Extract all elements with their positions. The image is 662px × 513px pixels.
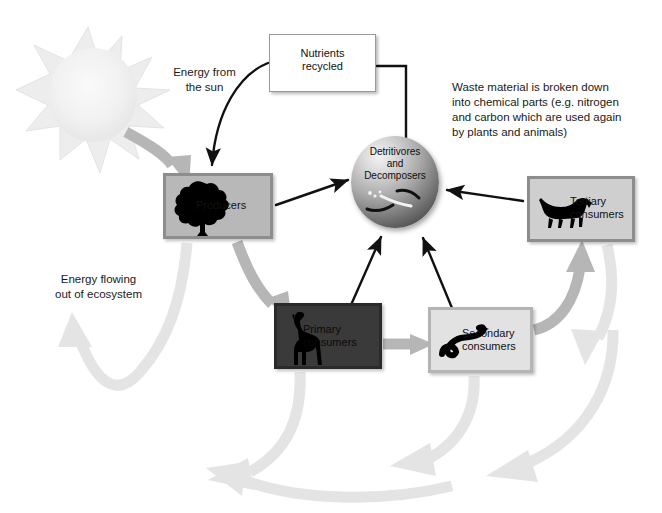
- node-nutrients-label: Nutrients recycled: [269, 47, 376, 73]
- node-detritivores-label: Detritivores and Decomposers: [351, 146, 439, 182]
- node-secondary-consumers-label: Secondary consumers: [462, 327, 538, 353]
- secondary-to-detritivores-arrow: [423, 238, 452, 308]
- producers-to-detritivores-arrow: [276, 180, 348, 205]
- secondary-energy-loss: [430, 376, 474, 458]
- detritivores-to-nutrients-line: [377, 66, 406, 145]
- left-energy-sweep: [82, 345, 140, 385]
- caption-energy-flowing-out: Energy flowing out of ecosystem: [26, 272, 171, 302]
- caption-energy-from-sun: Energy from the sun: [152, 65, 257, 95]
- node-tertiary-consumers-label: Tertiary consumers: [570, 195, 640, 221]
- sun-icon: [16, 27, 170, 173]
- primary-energy-loss: [250, 372, 300, 472]
- tertiary-energy-loss-b-head: [486, 450, 538, 482]
- secondary-energy-loss-head: [390, 443, 436, 476]
- ecosystem-diagram: Nutrients recycled Producers Primary con…: [0, 0, 662, 513]
- tertiary-energy-loss-b: [530, 330, 613, 462]
- node-producers-label: Producers: [196, 199, 272, 212]
- node-primary-consumers-label: Primary consumers: [303, 323, 379, 349]
- worms-icon: [361, 184, 429, 218]
- tertiary-energy-loss-a: [598, 245, 612, 338]
- producers-energy-loss: [140, 243, 187, 372]
- tertiary-energy-loss-a-head: [571, 329, 604, 365]
- secondary-to-tertiary-head: [566, 240, 595, 272]
- tertiary-to-detritivores-arrow: [447, 190, 523, 201]
- bottom-energy-sweep: [246, 481, 452, 497]
- caption-waste-material: Waste material is broken down into chemi…: [452, 80, 657, 140]
- left-energy-sweep-head: [58, 312, 92, 347]
- secondary-to-tertiary-arrow: [534, 268, 580, 330]
- producers-to-primary-arrow: [237, 242, 272, 304]
- primary-to-detritivores-arrow: [351, 237, 381, 305]
